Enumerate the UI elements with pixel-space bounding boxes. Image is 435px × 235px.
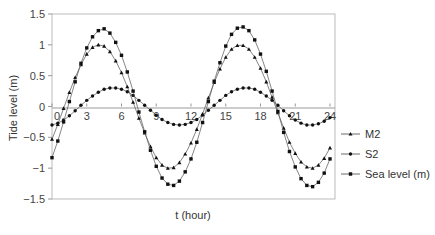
circle-marker <box>328 116 331 119</box>
square-marker <box>224 44 227 47</box>
circle-marker <box>79 104 82 107</box>
x-axis-title: t (hour) <box>175 209 210 221</box>
legend-item: S2 <box>341 148 378 160</box>
circle-marker <box>85 99 88 102</box>
square-marker <box>230 33 233 36</box>
square-marker <box>323 171 326 174</box>
circle-marker <box>230 90 233 93</box>
triangle-marker <box>96 43 100 47</box>
square-marker <box>91 35 94 38</box>
square-marker <box>126 70 129 73</box>
square-marker <box>265 70 268 73</box>
square-marker <box>108 31 111 34</box>
square-marker <box>114 41 117 44</box>
square-marker <box>166 183 169 186</box>
square-marker <box>97 29 100 32</box>
circle-marker <box>155 113 158 116</box>
triangle-marker <box>67 90 71 94</box>
circle-marker <box>120 88 123 91</box>
square-marker <box>276 110 279 113</box>
plot-frame <box>52 14 335 199</box>
square-marker <box>85 46 88 49</box>
x-tick-label: 6 <box>118 110 124 122</box>
circle-marker <box>349 152 352 155</box>
circle-marker <box>247 86 250 89</box>
circle-marker <box>305 123 308 126</box>
circle-marker <box>218 99 221 102</box>
square-marker <box>270 89 273 92</box>
x-tick-label: 24 <box>324 110 336 122</box>
square-marker <box>207 100 210 103</box>
square-marker <box>299 177 302 180</box>
square-marker <box>241 25 244 28</box>
series-sea-level-m <box>50 25 331 188</box>
circle-marker <box>299 121 302 124</box>
circle-marker <box>201 113 204 116</box>
square-marker <box>317 181 320 184</box>
circle-marker <box>236 88 239 91</box>
square-marker <box>120 54 123 57</box>
triangle-marker <box>230 47 234 51</box>
triangle-marker <box>293 151 297 155</box>
square-marker <box>73 80 76 83</box>
triangle-marker <box>259 66 263 70</box>
y-tick-label: 1 <box>39 39 45 51</box>
square-marker <box>149 149 152 152</box>
circle-marker <box>160 118 163 121</box>
x-tick-label: 18 <box>254 110 266 122</box>
triangle-marker <box>125 85 129 89</box>
circle-marker <box>282 109 285 112</box>
square-marker <box>259 52 262 55</box>
square-marker <box>282 131 285 134</box>
circle-marker <box>212 104 215 107</box>
tide-chart: −1.5−1−0.500.511.5 03691215182124 Tide l… <box>0 0 435 235</box>
square-marker <box>102 27 105 30</box>
circle-marker <box>114 86 117 89</box>
square-marker <box>137 110 140 113</box>
circle-marker <box>149 109 152 112</box>
square-marker <box>294 165 297 168</box>
circle-marker <box>184 123 187 126</box>
circle-marker <box>68 114 71 117</box>
square-marker <box>253 38 256 41</box>
square-marker <box>349 172 352 175</box>
circle-marker <box>143 104 146 107</box>
legend-label: S2 <box>365 148 378 160</box>
circle-marker <box>270 99 273 102</box>
circle-marker <box>241 86 244 89</box>
triangle-marker <box>183 152 187 156</box>
circle-marker <box>259 91 262 94</box>
legend-label: Sea level (m) <box>365 168 430 180</box>
square-marker <box>143 130 146 133</box>
square-marker <box>56 139 59 142</box>
triangle-marker <box>247 47 251 51</box>
legend-label: M2 <box>365 128 380 140</box>
circle-marker <box>172 123 175 126</box>
square-marker <box>328 157 331 160</box>
triangle-marker <box>264 80 268 84</box>
circle-marker <box>50 123 53 126</box>
square-marker <box>212 80 215 83</box>
square-marker <box>247 29 250 32</box>
square-marker <box>311 185 314 188</box>
y-tick-label: 0 <box>39 101 45 113</box>
y-tick-label: −0.5 <box>23 131 45 143</box>
circle-marker <box>189 121 192 124</box>
legend-item: Sea level (m) <box>341 168 430 180</box>
square-marker <box>218 61 221 64</box>
square-marker <box>305 184 308 187</box>
square-marker <box>68 100 71 103</box>
y-tick-label: −1 <box>32 162 45 174</box>
legend-item: M2 <box>341 128 380 140</box>
triangle-marker <box>328 146 332 150</box>
circle-marker <box>102 88 105 91</box>
square-marker <box>184 170 187 173</box>
square-marker <box>155 165 158 168</box>
circle-marker <box>91 94 94 97</box>
circle-marker <box>195 118 198 121</box>
circle-marker <box>288 114 291 117</box>
circle-marker <box>108 86 111 89</box>
circle-marker <box>253 88 256 91</box>
circle-marker <box>73 109 76 112</box>
circle-marker <box>178 123 181 126</box>
